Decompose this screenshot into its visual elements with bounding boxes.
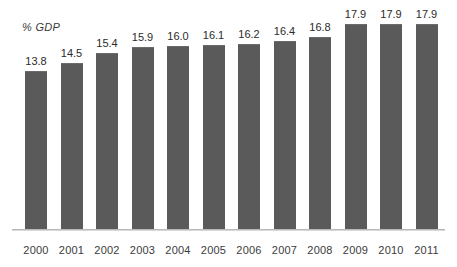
x-axis-tick-2002: 2002 (89, 244, 125, 256)
bar-value-label-2000: 13.8 (19, 55, 53, 67)
bar-value-label-2005: 16.1 (197, 29, 231, 41)
x-axis-tick-2009: 2009 (338, 244, 374, 256)
plot-area: 13.8200014.5200115.4200215.9200316.02004… (0, 0, 457, 267)
bar-2010 (380, 24, 402, 229)
x-axis-tick-2005: 2005 (196, 244, 232, 256)
bar-2001 (61, 63, 83, 229)
x-axis-tick-2006: 2006 (231, 244, 267, 256)
x-axis-tick-2011: 2011 (409, 244, 445, 256)
bar-2011 (416, 24, 438, 229)
bar-value-label-2011: 17.9 (410, 8, 444, 20)
x-axis-tick-2008: 2008 (302, 244, 338, 256)
bar-2005 (203, 45, 225, 229)
x-axis-tick-2000: 2000 (18, 244, 54, 256)
bar-2009 (345, 24, 367, 229)
bar-value-label-2003: 15.9 (126, 31, 160, 43)
x-axis-tick-2007: 2007 (267, 244, 303, 256)
bar-2002 (96, 53, 118, 229)
bar-value-label-2007: 16.4 (268, 25, 302, 37)
x-axis-tick-2001: 2001 (54, 244, 90, 256)
bar-2008 (309, 37, 331, 229)
bar-2006 (238, 44, 260, 229)
bar-value-label-2006: 16.2 (232, 28, 266, 40)
bar-2004 (167, 46, 189, 229)
bar-value-label-2001: 14.5 (55, 47, 89, 59)
x-axis-tick-2004: 2004 (160, 244, 196, 256)
bar-2003 (132, 47, 154, 229)
chart-screenshot: % GDP 13.8200014.5200115.4200215.9200316… (0, 0, 457, 267)
bar-value-label-2002: 15.4 (90, 37, 124, 49)
bar-value-label-2009: 17.9 (339, 8, 373, 20)
x-axis-tick-2003: 2003 (125, 244, 161, 256)
x-axis-tick-2010: 2010 (373, 244, 409, 256)
bar-value-label-2008: 16.8 (303, 21, 337, 33)
bar-2007 (274, 41, 296, 229)
x-axis-line-shadow (12, 230, 445, 231)
bar-2000 (25, 71, 47, 229)
bar-value-label-2010: 17.9 (374, 8, 408, 20)
bar-value-label-2004: 16.0 (161, 30, 195, 42)
